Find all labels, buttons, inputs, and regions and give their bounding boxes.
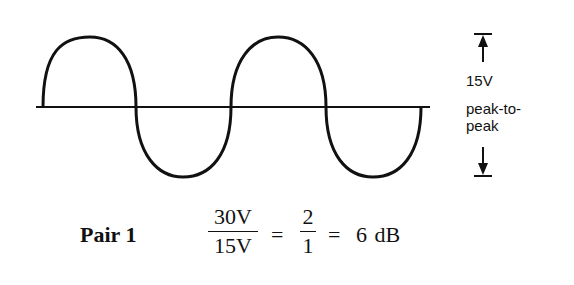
fraction-denominator: 15V (208, 233, 258, 259)
pair-label: Pair 1 (80, 222, 136, 248)
amplitude-value: 15V (466, 72, 493, 89)
simplified-ratio-fraction: 2 1 (300, 204, 316, 259)
arrow-down-to-bar-icon (474, 147, 492, 176)
equals-sign-2: = (328, 222, 340, 248)
amplitude-label-line1: peak-to- (466, 100, 521, 117)
fraction-denominator: 1 (300, 233, 316, 259)
decibel-result: 6 dB (356, 222, 400, 248)
equals-sign-1: = (271, 222, 283, 248)
fraction-bar (208, 231, 258, 232)
amplitude-label-line2: peak (466, 117, 499, 134)
fraction-numerator: 2 (300, 204, 316, 230)
voltage-ratio-fraction: 30V 15V (208, 204, 258, 259)
fraction-numerator: 30V (208, 204, 258, 230)
arrow-up-to-bar-icon (474, 34, 492, 62)
fraction-bar (300, 231, 316, 232)
